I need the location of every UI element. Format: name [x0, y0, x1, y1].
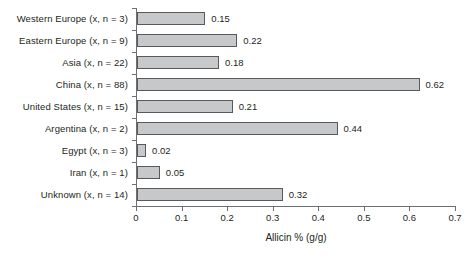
x-axis-tick [409, 207, 410, 211]
x-axis-tick [227, 207, 228, 211]
bar-row: 0.44 [137, 118, 456, 140]
y-axis-tick [132, 118, 136, 119]
category-label: China (x, n = 88) [0, 74, 133, 96]
y-axis-tick [132, 30, 136, 31]
bar-value-label: 0.15 [211, 12, 230, 25]
bar [137, 122, 338, 135]
bar-row: 0.02 [137, 140, 456, 162]
y-axis-tick [132, 184, 136, 185]
category-label: United States (x, n = 15) [0, 96, 133, 118]
x-axis-tick-label: 0.5 [349, 212, 379, 223]
x-axis-line [136, 206, 456, 207]
bar-value-label: 0.02 [152, 144, 171, 157]
x-axis-tick-label: 0 [121, 212, 151, 223]
x-axis-title: Allicin % (g/g) [136, 232, 456, 243]
bar-value-label: 0.22 [243, 34, 262, 47]
y-axis-tick [132, 162, 136, 163]
category-label: Unknown (x, n = 14) [0, 184, 133, 206]
bar-row: 0.62 [137, 74, 456, 96]
x-axis-tick [364, 207, 365, 211]
x-axis-tick [273, 207, 274, 211]
bar-row: 0.18 [137, 52, 456, 74]
bar [137, 144, 146, 157]
category-label: Western Europe (x, n = 3) [0, 8, 133, 30]
y-axis-tick [132, 140, 136, 141]
x-axis-tick-label: 0.4 [303, 212, 333, 223]
y-axis-tick [132, 74, 136, 75]
bar [137, 166, 160, 179]
bar [137, 34, 237, 47]
bar [137, 78, 420, 91]
bar [137, 12, 205, 25]
x-axis-tick [182, 207, 183, 211]
bar-value-label: 0.44 [344, 122, 363, 135]
category-label: Iran (x, n = 1) [0, 162, 133, 184]
bar-row: 0.21 [137, 96, 456, 118]
bar [137, 56, 219, 69]
y-axis-tick [132, 8, 136, 9]
bar-value-label: 0.32 [289, 188, 308, 201]
x-axis-tick [455, 207, 456, 211]
bar-value-label: 0.62 [426, 78, 445, 91]
bar-row: 0.05 [137, 162, 456, 184]
bar-value-label: 0.05 [166, 166, 185, 179]
y-axis-tick [132, 52, 136, 53]
category-label: Asia (x, n = 22) [0, 52, 133, 74]
plot-area: 0.150.220.180.620.210.440.020.050.32 [136, 8, 455, 206]
bar-row: 0.32 [137, 184, 456, 206]
category-label-column: Western Europe (x, n = 3)Eastern Europe … [0, 8, 133, 206]
x-axis-tick [136, 207, 137, 211]
x-axis-tick-label: 0.6 [394, 212, 424, 223]
bar-value-label: 0.21 [239, 100, 258, 113]
allicin-bar-chart: Western Europe (x, n = 3)Eastern Europe … [0, 0, 469, 259]
bar-value-label: 0.18 [225, 56, 244, 69]
x-axis-tick-label: 0.3 [258, 212, 288, 223]
x-axis-tick-label: 0.2 [212, 212, 242, 223]
category-label: Argentina (x, n = 2) [0, 118, 133, 140]
bar [137, 100, 233, 113]
bar-row: 0.15 [137, 8, 456, 30]
x-axis-tick-label: 0.7 [440, 212, 469, 223]
x-axis-tick-label: 0.1 [167, 212, 197, 223]
x-axis-tick [318, 207, 319, 211]
category-label: Eastern Europe (x, n = 9) [0, 30, 133, 52]
category-label: Egypt (x, n = 3) [0, 140, 133, 162]
bar [137, 188, 283, 201]
bar-row: 0.22 [137, 30, 456, 52]
y-axis-tick [132, 96, 136, 97]
